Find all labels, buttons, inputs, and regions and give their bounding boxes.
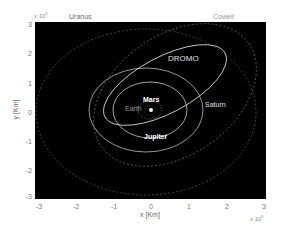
xtick: -3 [31, 203, 47, 210]
xtick: 3 [256, 203, 272, 210]
figure: Uranus Cowell DROMO Mars Earth Saturn Ju… [0, 0, 284, 230]
y-exponent: x 109 [34, 11, 48, 19]
ytick: -1 [20, 138, 32, 145]
ytick: -3 [20, 193, 32, 200]
label-earth: Earth [125, 105, 142, 112]
sun-point [149, 108, 153, 112]
label-saturn: Saturn [205, 101, 226, 108]
y-axis-label: y [Km] [12, 95, 19, 125]
label-dromo: DROMO [168, 54, 199, 63]
ytick: 3 [20, 21, 32, 28]
ytick: 1 [20, 80, 32, 87]
x-exponent-base: x 10 [250, 216, 261, 222]
label-mars: Mars [143, 96, 159, 103]
y-exponent-base: x 10 [34, 13, 45, 19]
x-axis-label: x [Km] [140, 211, 160, 218]
ytick: 0 [20, 109, 32, 116]
label-uranus: Uranus [69, 13, 92, 20]
label-jupiter: Jupiter [144, 133, 167, 140]
plot-svg [0, 0, 284, 230]
xtick: 2 [219, 203, 235, 210]
x-exponent-power: 9 [261, 214, 263, 219]
x-exponent: x 109 [250, 214, 264, 222]
xtick: -2 [68, 203, 84, 210]
ytick: -2 [20, 167, 32, 174]
ytick: 2 [20, 50, 32, 57]
xtick: 0 [143, 203, 159, 210]
xtick: 1 [181, 203, 197, 210]
label-cowell: Cowell [213, 13, 234, 20]
xtick: -1 [106, 203, 122, 210]
y-exponent-power: 9 [45, 11, 47, 16]
